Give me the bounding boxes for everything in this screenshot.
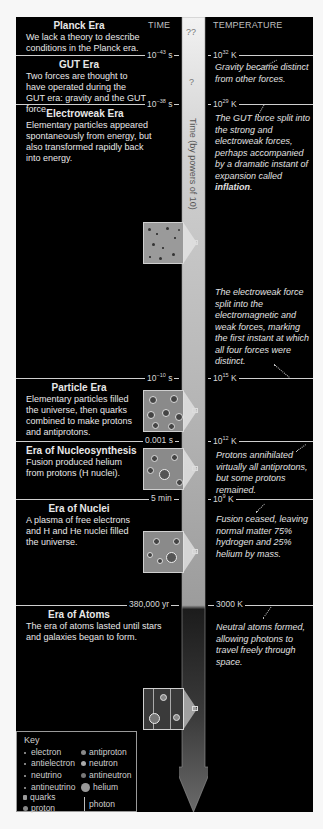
unknown-marker: ?? bbox=[186, 27, 196, 37]
zoom-source-marker bbox=[192, 549, 198, 554]
time-label: 0.001 s bbox=[143, 435, 175, 445]
key-item-antiproton: antiproton bbox=[81, 747, 127, 757]
key-item-proton: proton bbox=[23, 803, 55, 813]
antineutron-icon bbox=[81, 773, 86, 778]
time-label: 10−10 s bbox=[145, 372, 174, 383]
key-item-antineutron: antineutron bbox=[81, 770, 132, 780]
nuclei-era-image bbox=[143, 531, 184, 573]
zoom-source-marker bbox=[192, 706, 198, 711]
temperature-label: 1012 K bbox=[211, 435, 239, 446]
note-fusion-ceased: Fusion ceased, leaving normal matter 75%… bbox=[216, 514, 312, 560]
neutrino-icon bbox=[24, 775, 26, 777]
temperature-label: 3000 K bbox=[214, 599, 245, 609]
zoom-source-marker bbox=[192, 466, 198, 471]
note-antiprotons: Protons annihilated virtually all antipr… bbox=[216, 450, 312, 496]
helium-icon bbox=[81, 783, 90, 792]
era-description-atoms: The era of atoms lasted until stars and … bbox=[26, 621, 166, 643]
note-gravity: Gravity became distinct from other force… bbox=[215, 62, 310, 85]
era-title-particle: Particle Era bbox=[24, 382, 134, 393]
era-title-atoms: Era of Atoms bbox=[24, 609, 134, 620]
note-gut-split: The GUT force split into the strong and … bbox=[215, 113, 313, 194]
temperature-label: 1032 K bbox=[211, 49, 239, 60]
note-electroweak-split: The electroweak force split into the ele… bbox=[215, 287, 313, 368]
unknown-marker: ? bbox=[189, 77, 194, 87]
antielectron-icon bbox=[24, 763, 26, 765]
neutron-icon bbox=[81, 761, 86, 766]
key-item-neutron: neutron bbox=[81, 758, 118, 768]
time-label: 5 min bbox=[149, 493, 174, 503]
era-description-electroweak: Elementary particles appeared spontaneou… bbox=[26, 120, 156, 164]
zoom-source-marker bbox=[192, 240, 198, 245]
era-description-planck: We lack a theory to describe conditions … bbox=[26, 32, 141, 54]
era-title-gut: GUT Era bbox=[24, 59, 134, 70]
zoom-source-marker bbox=[192, 408, 198, 413]
electron-icon bbox=[24, 752, 26, 754]
quarks-icon bbox=[23, 795, 27, 800]
era-title-nucleosynthesis: Era of Nucleosynthesis bbox=[26, 445, 146, 456]
temperature-header: TEMPERATURE bbox=[213, 20, 283, 30]
key-item-quarks: quarks bbox=[23, 792, 56, 802]
key-item-photon: photon bbox=[89, 799, 115, 809]
time-axis-label: Time (by powers of 10) bbox=[188, 118, 198, 210]
antiproton-icon bbox=[81, 750, 86, 755]
key-item-antineutrino: antineutrino bbox=[24, 782, 75, 792]
time-label: 10−43 s bbox=[145, 49, 174, 60]
era-description-nuclei: A plasma of free electrons and H and He … bbox=[26, 515, 134, 548]
particle-era-image bbox=[143, 390, 184, 432]
key-item-electron: electron bbox=[24, 747, 61, 757]
time-label: 10−38 s bbox=[145, 98, 174, 109]
antineutrino-icon bbox=[24, 787, 26, 789]
key-item-neutrino: neutrino bbox=[24, 770, 62, 780]
era-description-particle: Elementary particles filled the universe… bbox=[26, 394, 134, 438]
era-description-nucleosynthesis: Fusion produced helium from protons (H n… bbox=[26, 457, 126, 479]
key-item-helium: helium bbox=[81, 782, 118, 792]
nucleosynthesis-image bbox=[143, 448, 184, 490]
electroweak-particles-image bbox=[143, 222, 184, 264]
photon-icon bbox=[84, 797, 85, 811]
temperature-label: 1015 K bbox=[211, 372, 239, 383]
key-item-antielectron: antielectron bbox=[24, 758, 75, 768]
era-title-electroweak: Electroweak Era bbox=[30, 108, 140, 119]
time-header: TIME bbox=[148, 20, 170, 30]
atoms-era-image bbox=[143, 688, 184, 730]
era-title-planck: Planck Era bbox=[24, 20, 134, 31]
key-title: Key bbox=[24, 735, 40, 745]
proton-icon bbox=[23, 806, 28, 811]
era-title-nuclei: Era of Nuclei bbox=[24, 503, 134, 514]
legend-key: Key electron antielectron neutrino antin… bbox=[16, 731, 137, 812]
note-neutral-atoms: Neutral atoms formed, allowing photons t… bbox=[216, 622, 312, 668]
temperature-label: 1029 K bbox=[211, 98, 239, 109]
time-label: 380,000 yr bbox=[127, 599, 171, 609]
